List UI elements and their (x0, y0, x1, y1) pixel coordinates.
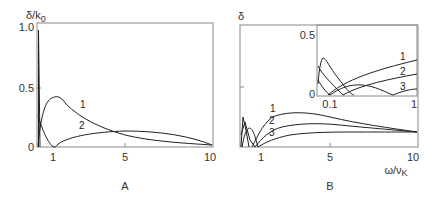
panel-b: δ 1 5 10 ω/νK 1 2 3 0.5 0 0.1 1 1 (238, 10, 419, 192)
panel-a: δ/k0 1.0 0.5 0 1 5 10 1 2 A (19, 9, 216, 192)
panel-b-curve-label-1: 1 (270, 103, 276, 114)
panel-a-caption: A (121, 180, 129, 192)
panel-b-xtick-label: 1 (258, 151, 264, 163)
panel-a-ytick-label: 0.5 (19, 82, 34, 94)
figure: δ/k0 1.0 0.5 0 1 5 10 1 2 A δ 1 5 10 ω/ν… (0, 0, 439, 200)
panel-b-xlabel: ω/νK (384, 164, 407, 178)
inset-curve-2-left (318, 66, 343, 95)
panel-b-curve-2 (255, 124, 417, 147)
inset-curve-label-1: 1 (400, 51, 406, 62)
panel-a-frame (37, 23, 213, 147)
panel-b-xtick-label: 5 (327, 151, 333, 163)
inset-xtick-label: 0.1 (322, 98, 337, 110)
inset-ytick-label: 0 (309, 88, 315, 100)
panel-a-xtick-label: 10 (204, 151, 216, 163)
inset-ytick-label: 0.5 (300, 29, 315, 41)
panel-b-xtick-label: 10 (407, 151, 419, 163)
panel-b-frame (240, 25, 418, 147)
panel-a-curve-label-1: 1 (80, 99, 86, 110)
panel-b-curve-3 (258, 132, 417, 147)
panel-a-xtick-label: 5 (122, 151, 128, 163)
panel-b-curve-label-3: 3 (269, 127, 275, 138)
panel-b-caption: B (326, 180, 333, 192)
inset-curve-label-3: 3 (400, 81, 406, 92)
inset-curve-2 (343, 74, 417, 95)
panel-b-ylabel: δ (238, 10, 244, 22)
inset-curve-label-2: 2 (400, 66, 406, 77)
panel-b-spike (242, 128, 258, 147)
panel-a-xtick-label: 1 (50, 151, 56, 163)
panel-a-curve-2 (38, 115, 212, 147)
panel-a-ytick-label: 1.0 (19, 21, 34, 33)
panel-b-curve-label-2: 2 (269, 115, 275, 126)
panel-b-inset: 0.5 0 0.1 1 1 2 3 (300, 25, 417, 110)
panel-a-curve-1 (38, 97, 212, 147)
inset-xtick-label: 1 (411, 98, 417, 110)
panel-a-curve-label-2: 2 (79, 120, 85, 131)
panel-a-ytick-label: 0 (28, 141, 34, 153)
